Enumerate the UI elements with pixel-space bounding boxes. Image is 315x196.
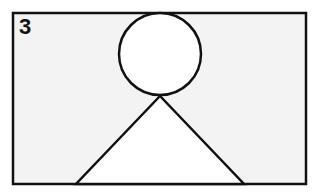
diagram-figure: 3 bbox=[0, 0, 315, 196]
panel-number-label: 3 bbox=[19, 16, 31, 38]
diagram-canvas bbox=[0, 0, 315, 196]
head-circle bbox=[119, 13, 201, 95]
